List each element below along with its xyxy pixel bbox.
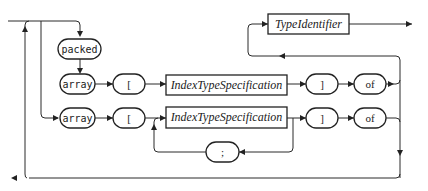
terminal-of-top-label: of [365,78,375,90]
terminal-rbracket-bottom-label: ] [320,112,324,124]
arrow-icon [406,21,412,27]
arrow-icon [11,175,17,181]
branch-line [41,21,58,118]
arrow-icon [77,31,83,37]
nonterminal-type-identifier-label: TypeIdentifier [275,17,342,31]
arrow-icon [300,81,306,87]
arrow-icon [239,149,245,155]
loop-back-line [25,21,29,178]
nonterminal-index-top-label: IndexTypeSpecification [170,78,283,92]
return-line [248,24,400,178]
arrow-icon [348,115,354,121]
arrow-icon [397,150,403,156]
entry-line [8,21,80,34]
terminal-lbracket-top-label: [ [127,78,131,90]
terminal-lbracket-bottom-label: [ [127,112,131,124]
bottom-return-line [29,174,400,178]
terminal-separator-label: ; [221,146,224,158]
arrow-icon [107,115,113,121]
arrow-icon [160,81,166,87]
arrow-icon [160,115,166,121]
arrow-icon [300,115,306,121]
arrow-icon [107,81,113,87]
syntax-diagram: packed array [ IndexTypeSpecification ] … [0,0,428,191]
arrow-icon [53,115,59,121]
arrow-icon [22,26,28,32]
arrow-icon [262,21,268,27]
terminal-array-bottom-label: array [62,113,92,124]
arrow-icon [77,68,83,74]
nonterminal-index-bottom-label: IndexTypeSpecification [170,110,283,124]
terminal-array-top-label: array [62,79,92,90]
arrow-icon [279,53,285,59]
terminal-rbracket-top-label: ] [320,78,324,90]
arrow-icon [151,124,157,130]
terminal-of-bottom-label: of [365,112,375,124]
arrow-icon [348,81,354,87]
terminal-packed-label: packed [61,44,97,55]
arrow-icon [388,81,394,87]
